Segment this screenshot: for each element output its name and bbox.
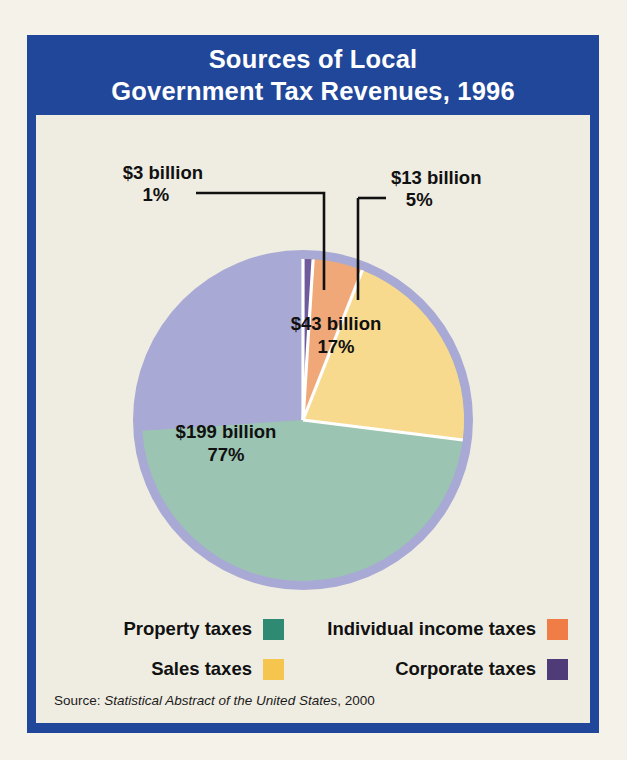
title-line-1: Sources of Local (209, 43, 418, 75)
slice-label-sales-percent: 17% (291, 335, 381, 358)
slice-label-sales-value: $43 billion (291, 312, 381, 335)
legend-item-property-taxes: Property taxes (58, 618, 290, 640)
callout-corporate-percent: 1% (123, 184, 203, 206)
callout-individual-value: $13 billion (391, 167, 481, 189)
slice-label-sales-taxes: $43 billion 17% (291, 312, 381, 358)
chart-legend: Property taxes Individual income taxes S… (58, 609, 574, 689)
legend-label-property-taxes: Property taxes (123, 618, 252, 640)
legend-swatch-corporate-taxes (547, 659, 568, 680)
legend-item-individual-income-taxes: Individual income taxes (290, 618, 574, 640)
figure-page: Sources of Local Government Tax Revenues… (0, 0, 627, 760)
legend-label-corporate-taxes: Corporate taxes (395, 658, 536, 680)
figure-frame: Sources of Local Government Tax Revenues… (27, 35, 599, 733)
legend-swatch-individual-income-taxes (547, 619, 568, 640)
source-year: , 2000 (337, 693, 375, 708)
figure-title: Sources of Local Government Tax Revenues… (27, 35, 599, 115)
slice-label-property-percent: 77% (176, 443, 277, 466)
legend-swatch-property-taxes (263, 619, 284, 640)
legend-item-sales-taxes: Sales taxes (58, 658, 290, 680)
legend-item-corporate-taxes: Corporate taxes (290, 658, 574, 680)
slice-label-property-value: $199 billion (176, 420, 277, 443)
source-prefix: Source: (54, 693, 101, 708)
chart-panel: $3 billion 1% $13 billion 5% $43 billion… (36, 115, 590, 723)
title-line-2: Government Tax Revenues, 1996 (111, 75, 515, 107)
callout-individual-percent: 5% (391, 189, 481, 211)
source-note: Source: Statistical Abstract of the Unit… (54, 693, 375, 708)
source-title: Statistical Abstract of the United State… (104, 693, 337, 708)
legend-label-sales-taxes: Sales taxes (151, 658, 252, 680)
legend-swatch-sales-taxes (263, 659, 284, 680)
callout-individual-income-taxes: $13 billion 5% (391, 167, 481, 211)
callout-corporate-taxes: $3 billion 1% (123, 162, 203, 206)
legend-label-individual-income-taxes: Individual income taxes (327, 618, 536, 640)
slice-label-property-taxes: $199 billion 77% (176, 420, 277, 466)
callout-corporate-value: $3 billion (123, 162, 203, 184)
